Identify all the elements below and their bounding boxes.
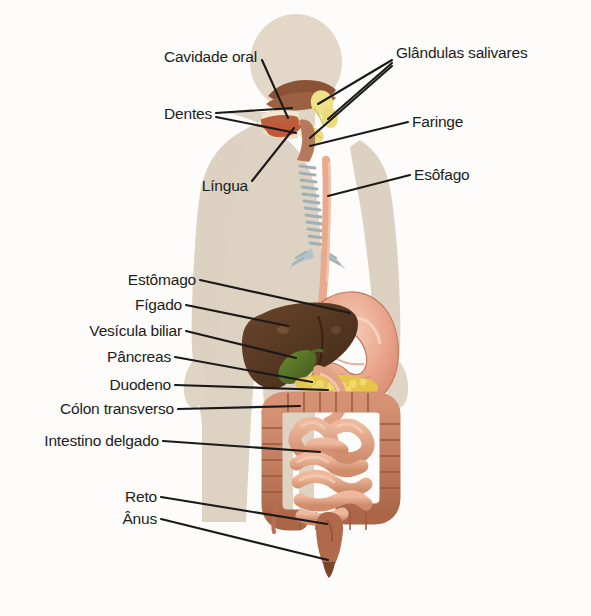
label-cavidade-oral: Cavidade oral bbox=[164, 49, 257, 65]
label-dentes: Dentes bbox=[164, 106, 212, 122]
anus-organ bbox=[323, 562, 335, 578]
label-figado: Fígado bbox=[135, 297, 182, 313]
label-esofago: Esôfago bbox=[414, 167, 469, 183]
label-duodeno: Duodeno bbox=[109, 377, 171, 393]
label-glandulas-salivares: Glândulas salivares bbox=[396, 45, 527, 61]
label-faringe: Faringe bbox=[412, 114, 463, 130]
label-reto: Reto bbox=[125, 489, 157, 505]
label-lingua: Língua bbox=[202, 178, 248, 194]
label-estomago: Estômago bbox=[128, 272, 196, 288]
digestive-system-figure bbox=[0, 0, 591, 616]
label-pancreas: Pâncreas bbox=[107, 349, 171, 365]
esophagus-organ bbox=[322, 160, 327, 308]
label-anus: Ânus bbox=[122, 511, 157, 527]
label-vesicula-biliar: Vesícula biliar bbox=[89, 323, 182, 339]
label-colon-transverso: Cólon transverso bbox=[60, 401, 174, 417]
rectum-organ bbox=[316, 512, 343, 564]
label-intestino-delgado: Intestino delgado bbox=[44, 433, 159, 449]
